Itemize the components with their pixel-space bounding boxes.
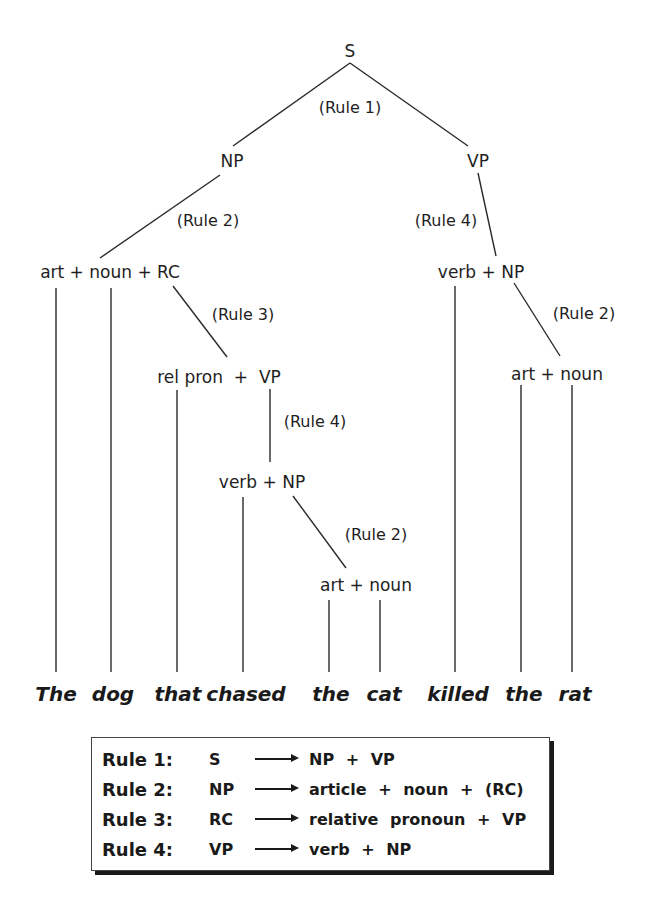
parse-tree: S NP VP art + noun + RC verb + NP rel pr…: [0, 0, 657, 730]
rule-label-rc: (Rule 3): [212, 305, 275, 324]
node-np: NP: [221, 151, 244, 171]
rule-label-np-right: (Rule 2): [553, 304, 616, 323]
word-the-3: the: [505, 682, 542, 706]
rule-row-2: Rule 2: NP article + noun + (RC): [102, 774, 549, 804]
rule-label-vp-inner: (Rule 4): [284, 412, 347, 431]
word-dog: dog: [92, 682, 134, 706]
rule-lhs: NP: [209, 780, 251, 799]
word-that: that: [155, 682, 203, 706]
node-np-expansion: art + noun + RC: [40, 262, 180, 282]
word-chased: chased: [206, 682, 286, 706]
rules-legend-box: Rule 1: S NP + VP Rule 2: NP article + n…: [91, 737, 550, 871]
node-rc-expansion: rel pron + VP: [157, 367, 281, 387]
edge-vp-expansion: [478, 173, 496, 256]
word-the-1: The: [35, 682, 76, 706]
rule-rhs: relative pronoun + VP: [309, 810, 526, 829]
rule-name: Rule 4:: [102, 839, 209, 860]
rule-lhs: RC: [209, 810, 251, 829]
rule-name: Rule 3:: [102, 809, 209, 830]
arrow-right-icon: [251, 753, 309, 765]
rule-rhs: article + noun + (RC): [309, 780, 524, 799]
node-s: S: [345, 41, 356, 61]
word-the-2: the: [312, 682, 349, 706]
arrow-right-icon: [251, 813, 309, 825]
rule-lhs: S: [209, 750, 251, 769]
node-vp-inner-expansion: verb + NP: [219, 472, 305, 492]
node-vp: VP: [467, 151, 489, 171]
rule-rhs: verb + NP: [309, 840, 411, 859]
word-cat: cat: [367, 682, 403, 706]
rule-name: Rule 2:: [102, 779, 209, 800]
node-vp-expansion: verb + NP: [438, 262, 524, 282]
arrow-right-icon: [251, 843, 309, 855]
rule-row-1: Rule 1: S NP + VP: [102, 744, 549, 774]
rule-lhs: VP: [209, 840, 251, 859]
arrow-right-icon: [251, 783, 309, 795]
rule-rhs: NP + VP: [309, 750, 395, 769]
rule-label-np-top: (Rule 2): [177, 211, 240, 230]
node-np-inner-expansion: art + noun: [320, 575, 412, 595]
rule-name: Rule 1:: [102, 749, 209, 770]
rule-label-vp-top: (Rule 4): [415, 211, 478, 230]
node-np-right-expansion: art + noun: [511, 364, 603, 384]
edge-np-inner-expansion: [293, 496, 346, 568]
word-killed: killed: [427, 682, 489, 706]
rule-label-1: (Rule 1): [319, 98, 382, 117]
rule-row-3: Rule 3: RC relative pronoun + VP: [102, 804, 549, 834]
rule-label-np-inner: (Rule 2): [345, 525, 408, 544]
word-rat: rat: [559, 682, 593, 706]
rule-row-4: Rule 4: VP verb + NP: [102, 834, 549, 864]
